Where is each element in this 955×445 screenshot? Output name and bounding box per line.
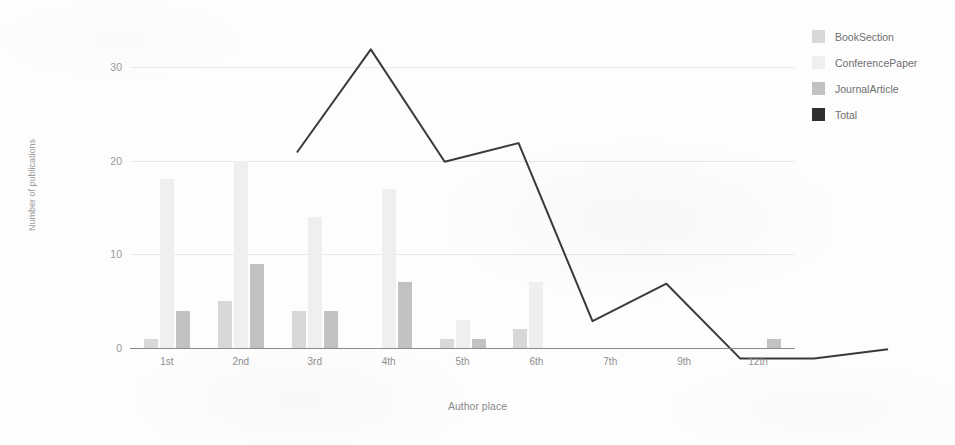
legend-item-label: BookSection (835, 31, 894, 43)
x-axis-tick-label: 3rd (285, 356, 345, 367)
chart-legend: BookSectionConferencePaperJournalArticle… (812, 30, 952, 134)
legend-item-label: JournalArticle (835, 83, 899, 95)
y-axis-tick-label: 0 (82, 342, 122, 354)
x-axis-tick-label: 1st (137, 356, 197, 367)
y-axis-tick-label: 20 (82, 155, 122, 167)
x-axis-tick-label: 7th (580, 356, 640, 367)
legend-item[interactable]: JournalArticle (812, 82, 952, 95)
legend-item-label: Total (835, 109, 857, 121)
legend-item[interactable]: BookSection (812, 30, 952, 43)
x-axis-tick-label: 6th (506, 356, 566, 367)
publications-by-author-place-chart: 0102030 Number of publications 1st2nd3rd… (0, 0, 955, 445)
legend-swatch-icon (812, 56, 825, 69)
legend-swatch-icon (812, 82, 825, 95)
x-axis-title: Author place (0, 400, 955, 412)
legend-item-label: ConferencePaper (835, 57, 917, 69)
x-axis-tick-label: 2nd (211, 356, 271, 367)
y-axis-tick-label: 30 (82, 61, 122, 73)
x-axis-tick-label: 12th (728, 356, 788, 367)
y-axis-tick-labels: 0102030 (78, 20, 122, 348)
x-axis-tick-label: 4th (359, 356, 419, 367)
y-axis-tick-label: 10 (82, 248, 122, 260)
legend-swatch-icon (812, 108, 825, 121)
x-axis-line (130, 348, 795, 349)
x-axis-tick-label: 5th (433, 356, 493, 367)
y-axis-title: Number of publications (27, 105, 37, 265)
plot-area (130, 20, 795, 348)
legend-swatch-icon (812, 30, 825, 43)
x-axis-tick-label: 9th (654, 356, 714, 367)
legend-item[interactable]: ConferencePaper (812, 56, 952, 69)
total-line-path (297, 49, 888, 358)
legend-item[interactable]: Total (812, 108, 952, 121)
